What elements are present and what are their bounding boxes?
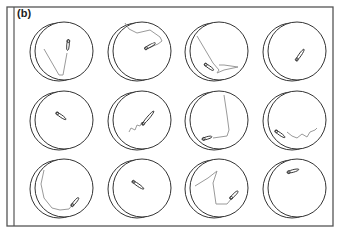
well	[263, 22, 326, 81]
well-front-rim	[113, 91, 171, 149]
well	[108, 91, 171, 150]
well	[263, 159, 326, 218]
well	[30, 91, 93, 150]
well-front-rim	[268, 91, 326, 149]
well-front-rim	[35, 159, 93, 217]
well	[263, 91, 326, 150]
well	[185, 91, 248, 150]
well-front-rim	[268, 22, 326, 80]
well	[185, 159, 248, 218]
well	[108, 22, 171, 81]
well-front-rim	[190, 22, 248, 80]
well	[30, 159, 93, 218]
wells-grid	[30, 22, 326, 218]
well-front-rim	[190, 159, 248, 217]
well-front-rim	[113, 22, 171, 80]
well-plate-figure	[0, 0, 342, 235]
well-front-rim	[268, 159, 326, 217]
well-front-rim	[35, 91, 93, 149]
well	[108, 159, 171, 218]
well-front-rim	[113, 159, 171, 217]
well-front-rim	[190, 91, 248, 149]
panel-label: (b)	[17, 7, 31, 19]
well	[30, 22, 93, 81]
well	[185, 22, 248, 81]
